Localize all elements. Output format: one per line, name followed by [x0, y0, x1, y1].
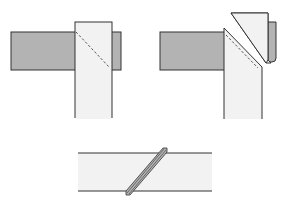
- step-1-figure: [11, 22, 121, 122]
- horizontal-strip: [160, 32, 226, 70]
- step-3-figure: [78, 148, 212, 195]
- step-2-figure: [160, 13, 276, 123]
- binding-diagram: [0, 0, 292, 200]
